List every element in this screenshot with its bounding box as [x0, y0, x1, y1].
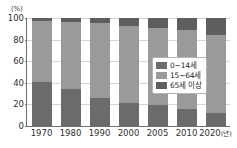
y-tick-label: 20 [13, 100, 24, 109]
bar-segment-youth [206, 113, 226, 126]
bar-segment-youth [177, 109, 197, 126]
bar-1990 [90, 18, 110, 126]
x-axis-unit-label: (년) [221, 130, 232, 138]
legend-label-senior: 65세 이상 [170, 82, 202, 90]
y-tick-mark [25, 40, 28, 41]
legend-item-youth[interactable]: 0~14세 [156, 61, 202, 71]
bar-segment-working [206, 35, 226, 113]
bar-segment-youth [90, 98, 110, 126]
bar-segment-youth [61, 89, 81, 126]
bar-1970 [32, 18, 52, 126]
y-tick-label: 80 [13, 35, 24, 44]
legend-item-working[interactable]: 15~64세 [156, 71, 202, 81]
bar-segment-youth [119, 103, 139, 126]
y-tick-mark [25, 18, 28, 19]
bar-segment-senior [148, 18, 168, 28]
x-tick-label-2020: 2020(년) [199, 129, 232, 138]
legend: 0~14세15~64세65세 이상 [152, 57, 207, 94]
bar-segment-working [32, 21, 52, 81]
y-tick-mark [25, 126, 28, 127]
y-tick-label: 40 [13, 79, 24, 88]
bar-segment-senior [119, 18, 139, 26]
x-tick-label-1970: 1970 [31, 129, 53, 138]
x-tick-label-2005: 2005 [147, 129, 169, 138]
x-tick-label-2000: 2000 [118, 129, 140, 138]
age-composition-stacked-bar-chart: (%) 020406080100 19701980199020002005201… [0, 0, 237, 148]
bar-segment-youth [148, 105, 168, 126]
y-tick-label: 0 [19, 122, 24, 131]
y-tick-mark [25, 104, 28, 105]
y-tick-label: 60 [13, 57, 24, 66]
legend-label-youth: 0~14세 [170, 62, 197, 70]
legend-label-working: 15~64세 [170, 72, 201, 80]
bar-segment-youth [32, 82, 52, 126]
bar-segment-senior [206, 18, 226, 35]
bar-segment-senior [177, 18, 197, 30]
bar-2000 [119, 18, 139, 126]
legend-item-senior[interactable]: 65세 이상 [156, 81, 202, 91]
y-tick-mark [25, 61, 28, 62]
y-tick-mark [25, 83, 28, 84]
bar-2020 [206, 18, 226, 126]
y-tick-label: 100 [8, 14, 24, 23]
legend-swatch-youth [156, 62, 167, 69]
x-tick-label-2010: 2010 [176, 129, 198, 138]
bar-segment-working [61, 22, 81, 89]
x-tick-label-1990: 1990 [89, 129, 111, 138]
bar-1980 [61, 18, 81, 126]
bar-segment-working [119, 26, 139, 104]
x-tick-label-1980: 1980 [60, 129, 82, 138]
bar-segment-working [90, 23, 110, 98]
legend-swatch-senior [156, 82, 167, 89]
legend-swatch-working [156, 72, 167, 79]
